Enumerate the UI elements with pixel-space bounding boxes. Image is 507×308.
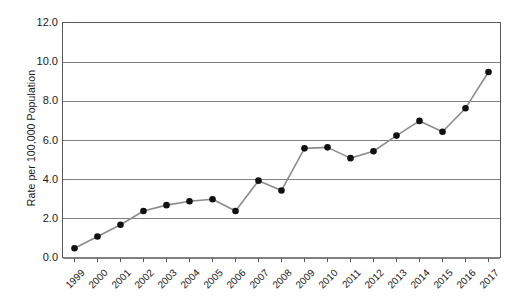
data-point-marker: 2009: 5.6 — [301, 145, 308, 152]
chart-figure: Rate per 100,000 Population 0.02.04.06.0… — [0, 0, 507, 308]
data-point-marker: 2005: 3 — [209, 196, 216, 203]
data-point-marker: 2011: 5.1 — [347, 155, 354, 162]
plot-area: 1999: 0.52000: 1.12001: 1.72002: 2.42003… — [62, 22, 501, 258]
y-axis-tick-label: 4.0 — [12, 173, 58, 185]
data-point-marker: 2017: 9.5 — [485, 69, 492, 76]
y-axis-tick-label: 12.0 — [12, 16, 58, 28]
x-axis-tick-labels: 1999200020012002200320042005200620072008… — [62, 259, 499, 308]
data-point-marker: 2010: 5.65 — [324, 144, 331, 151]
data-series-line: 1999: 0.52000: 1.12001: 1.72002: 2.42003… — [63, 23, 500, 258]
y-axis-tick-label: 0.0 — [12, 251, 58, 263]
data-point-marker: 2000: 1.1 — [94, 233, 101, 240]
y-axis-tick-labels: 0.02.04.06.08.010.012.0 — [12, 0, 58, 308]
data-point-marker: 2002: 2.4 — [140, 208, 147, 215]
data-point-marker: 1999: 0.5 — [71, 245, 78, 252]
data-point-marker: 2016: 7.65 — [462, 105, 469, 112]
data-point-marker: 2012: 5.45 — [370, 148, 377, 155]
series-polyline — [75, 72, 489, 248]
data-point-marker: 2015: 6.45 — [439, 128, 446, 135]
data-point-marker: 2006: 2.4 — [232, 208, 239, 215]
y-axis-tick-label: 2.0 — [12, 212, 58, 224]
data-point-marker: 2014: 7 — [416, 118, 423, 125]
data-point-marker: 2001: 1.7 — [117, 221, 124, 228]
data-point-marker: 2003: 2.7 — [163, 202, 170, 209]
data-point-marker: 2004: 2.9 — [186, 198, 193, 205]
data-point-marker: 2013: 6.25 — [393, 132, 400, 139]
y-axis-tick-label: 6.0 — [12, 134, 58, 146]
y-axis-tick-label: 8.0 — [12, 94, 58, 106]
y-axis-tick-label: 10.0 — [12, 55, 58, 67]
data-point-marker: 2008: 3.45 — [278, 187, 285, 194]
data-point-marker: 2007: 3.95 — [255, 177, 262, 184]
